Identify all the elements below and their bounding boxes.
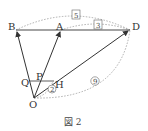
label-D: D xyxy=(132,21,140,32)
ratio-label-OD: 9 xyxy=(93,78,97,86)
figure-caption: 図 2 xyxy=(64,117,82,127)
label-P: P xyxy=(36,71,43,82)
label-A: A xyxy=(55,21,64,32)
vector-OB xyxy=(17,32,34,98)
geometry-figure: B A D O Q P H 5 3 9 2 図 2 xyxy=(0,0,148,131)
ratio-label-AD: 3 xyxy=(96,22,100,30)
ratio-label-OH: 2 xyxy=(50,86,54,94)
label-O: O xyxy=(29,99,37,110)
label-H: H xyxy=(55,79,64,90)
ratio-label-BD: 5 xyxy=(74,12,78,20)
label-B: B xyxy=(8,21,15,32)
label-Q: Q xyxy=(21,77,29,88)
